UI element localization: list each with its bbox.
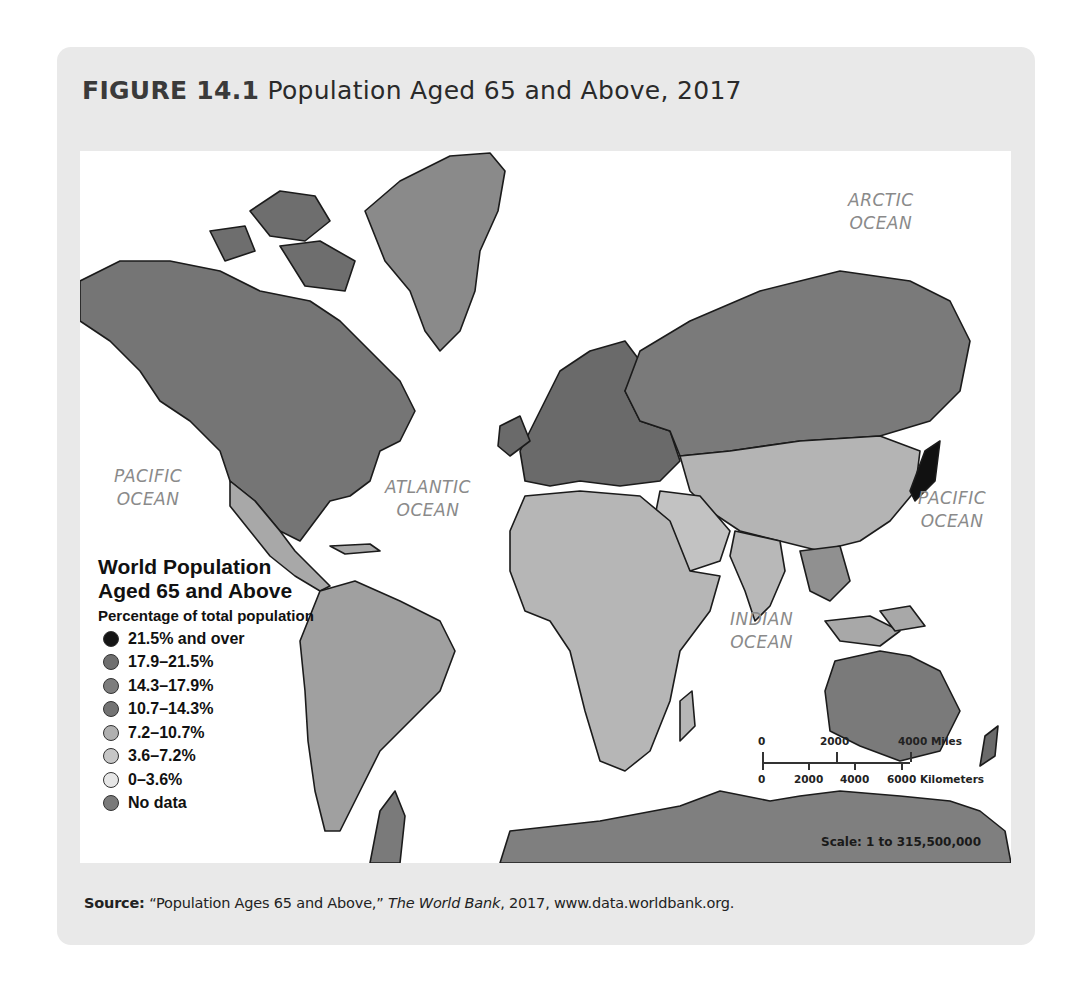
legend-item: 7.2–10.7% [98, 721, 358, 745]
figure-number: FIGURE 14.1 [82, 76, 259, 105]
scale-bar: 0 2000 4000 Miles 0 2000 4000 6000 Kilom… [758, 735, 1008, 795]
legend-swatch-icon [103, 748, 119, 764]
legend-title-line2: Aged 65 and Above [98, 579, 358, 603]
legend-swatch-icon [103, 795, 119, 811]
ocean-label-pacific-east: PACIFIC OCEAN [918, 487, 986, 533]
ocean-label-atlantic: ATLANTIC OCEAN [385, 476, 471, 522]
world-map: ARCTIC OCEAN PACIFIC OCEAN ATLANTIC OCEA… [80, 151, 1011, 863]
legend-item: 14.3–17.9% [98, 674, 358, 698]
legend-swatch-icon [103, 678, 119, 694]
map-legend: World Population Aged 65 and Above Perce… [98, 555, 358, 815]
legend-swatch-icon [103, 725, 119, 741]
greenland [365, 153, 505, 351]
figure-caption: Population Aged 65 and Above, 2017 [267, 76, 741, 105]
scale-ratio: Scale: 1 to 315,500,000 [821, 835, 981, 849]
figure-title: FIGURE 14.1 Population Aged 65 and Above… [82, 76, 742, 105]
ocean-label-arctic: ARCTIC OCEAN [848, 189, 914, 235]
legend-item: No data [98, 792, 358, 816]
legend-swatch-icon [103, 701, 119, 717]
legend-item: 3.6–7.2% [98, 745, 358, 769]
legend-title-line1: World Population [98, 555, 358, 579]
legend-subtitle: Percentage of total population [98, 605, 358, 627]
antarctica [500, 791, 1011, 863]
ocean-label-pacific-west: PACIFIC OCEAN [114, 465, 182, 511]
legend-item: 0–3.6% [98, 768, 358, 792]
legend-swatch-icon [103, 654, 119, 670]
legend-swatch-icon [103, 631, 119, 647]
source-citation: Source: “Population Ages 65 and Above,” … [84, 895, 734, 911]
legend-item: 21.5% and over [98, 627, 358, 651]
legend-item: 17.9–21.5% [98, 651, 358, 675]
legend-swatch-icon [103, 772, 119, 788]
ocean-label-indian: INDIAN OCEAN [730, 608, 793, 654]
russia [625, 271, 970, 456]
legend-item: 10.7–14.3% [98, 698, 358, 722]
